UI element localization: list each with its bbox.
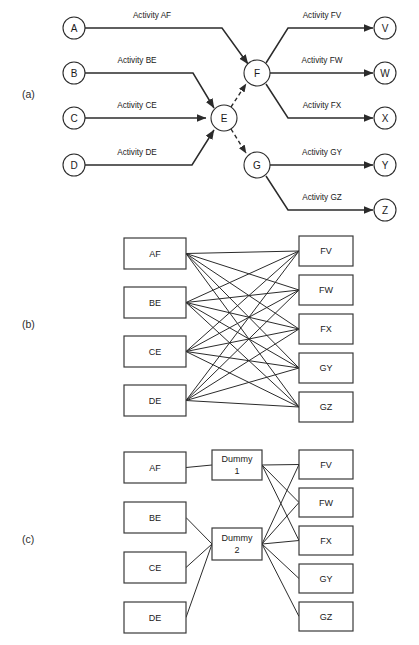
panel-c-node-de: DE [124, 602, 186, 633]
label-activity-AF: Activity AF [133, 11, 171, 20]
node-X-label: X [382, 113, 389, 124]
panel-c-dummy-d1: Dummy1 [212, 450, 262, 480]
panel-c-dummy-d2: Dummy2 [212, 528, 262, 560]
edge-be-d2 [186, 518, 212, 545]
box-label: GZ [320, 612, 333, 622]
node-C-label: C [70, 113, 77, 124]
panel-c-node-ce: CE [124, 552, 186, 583]
figure-container: Activity AF Activity BE Activity CE Acti… [0, 0, 419, 645]
node-E-label: E [221, 113, 228, 124]
box-label: AF [149, 463, 161, 473]
panel-b-edge-layer [186, 251, 299, 407]
panel-label-a: (a) [22, 88, 35, 100]
edge-d1-fw [262, 465, 299, 503]
panel-b-node-de: DE [124, 385, 186, 416]
node-A-label: A [71, 23, 78, 34]
node-A: A [63, 17, 85, 39]
edge-dummy-EF [231, 84, 246, 107]
label-activity-FX: Activity FX [303, 101, 342, 110]
node-V: V [374, 17, 396, 39]
edge-af-d1 [186, 465, 212, 468]
box-label-line1: Dummy [222, 533, 253, 543]
box-label: BE [149, 513, 161, 523]
box-label: DE [149, 396, 162, 406]
edge-de-gz [186, 401, 299, 408]
node-D: D [63, 154, 85, 176]
panel-b-node-gy: GY [299, 353, 353, 383]
box-label-line1: Dummy [222, 454, 253, 464]
edge-d2-fx [262, 541, 299, 545]
label-activity-CE: Activity CE [117, 101, 157, 110]
panel-label-b: (b) [22, 318, 35, 330]
box-label: FW [319, 498, 333, 508]
panel-a-activity-network: Activity AF Activity BE Activity CE Acti… [0, 0, 419, 228]
label-activity-FV: Activity FV [303, 11, 342, 20]
edge-activity-AF [85, 28, 248, 64]
box-label: GY [319, 363, 332, 373]
panel-c-node-fx: FX [299, 526, 353, 555]
label-activity-BE: Activity BE [117, 56, 157, 65]
node-G: G [244, 152, 270, 178]
node-Y: Y [374, 154, 396, 176]
edge-de-d2 [186, 544, 212, 618]
node-B-label: B [71, 68, 78, 79]
panel-b-bipartite-graph: AFBECEDEFVFWFXGYGZ [0, 228, 419, 430]
label-activity-DE: Activity DE [117, 148, 157, 157]
panel-label-c: (c) [22, 533, 34, 545]
edge-de-fx [186, 329, 299, 401]
node-F: F [244, 60, 270, 86]
box-label: AF [149, 249, 161, 259]
panel-b-node-fx: FX [299, 314, 353, 344]
box-label: FV [320, 460, 332, 470]
panel-c-node-af: AF [124, 452, 186, 483]
panel-c-node-fv: FV [299, 450, 353, 479]
node-Y-label: Y [382, 160, 389, 171]
label-activity-FW: Activity FW [302, 56, 343, 65]
box-label: GY [319, 574, 332, 584]
edge-dummy-EG [231, 129, 246, 153]
box-label: CE [149, 347, 162, 357]
box-label: CE [149, 563, 162, 573]
panel-b-node-gz: GZ [299, 392, 353, 422]
box-label-line2: 1 [234, 466, 239, 476]
panel-c-node-be: BE [124, 502, 186, 533]
panel-b-node-layer: AFBECEDEFVFWFXGYGZ [124, 236, 353, 422]
panel-c-node-fw: FW [299, 488, 353, 517]
panel-b-node-ce: CE [124, 336, 186, 367]
node-D-label: D [70, 160, 77, 171]
node-B: B [63, 62, 85, 84]
node-W: W [374, 62, 396, 84]
box-label: DE [149, 613, 162, 623]
node-Z-label: Z [382, 205, 388, 216]
node-Z: Z [374, 199, 396, 221]
panel-b-node-fw: FW [299, 275, 353, 305]
edge-d1-fv [262, 465, 299, 466]
edge-ce-fw [186, 290, 299, 352]
edge-ce-fv [186, 251, 299, 352]
panel-b-node-af: AF [124, 238, 186, 269]
box-label: FV [320, 246, 332, 256]
box-label-line2: 2 [234, 545, 239, 555]
node-E: E [211, 105, 237, 131]
panel-c-node-layer: AFBECEDEDummy1Dummy2FVFWFXGYGZ [124, 450, 353, 633]
node-V-label: V [382, 23, 389, 34]
edge-d2-fw [262, 503, 299, 545]
panel-c-node-gz: GZ [299, 602, 353, 631]
panel-c-node-gy: GY [299, 564, 353, 593]
edge-d2-gz [262, 544, 299, 617]
edge-d2-gy [262, 544, 299, 579]
node-F-label: F [254, 68, 260, 79]
box-label: GZ [320, 402, 333, 412]
edge-de-fv [186, 251, 299, 401]
node-G-label: G [253, 160, 261, 171]
label-activity-GZ: Activity GZ [302, 193, 342, 202]
node-W-label: W [380, 68, 390, 79]
node-C: C [63, 107, 85, 129]
edge-af-fv [186, 251, 299, 254]
box-label: FX [320, 536, 332, 546]
panel-c-dummy-graph: AFBECEDEDummy1Dummy2FVFWFXGYGZ [0, 430, 419, 645]
panel-b-node-fv: FV [299, 236, 353, 266]
box-label: FW [319, 285, 333, 295]
label-activity-GY: Activity GY [302, 148, 343, 157]
box-label: BE [149, 298, 161, 308]
